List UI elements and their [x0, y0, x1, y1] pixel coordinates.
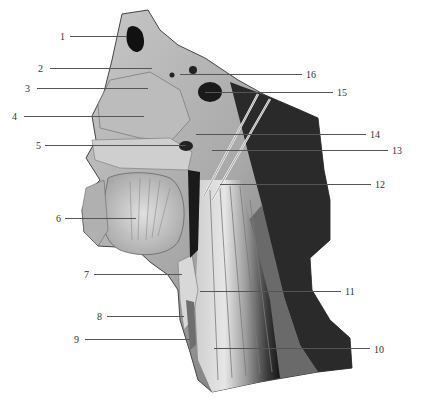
small-cavity — [189, 66, 197, 74]
anatomical-figure: 12345678910111213141516 — [0, 0, 422, 404]
leader-line-13 — [212, 150, 388, 151]
leader-line-11 — [200, 291, 341, 292]
leader-line-9 — [85, 339, 190, 340]
label-number-13: 13 — [392, 146, 402, 156]
label-number-11: 11 — [345, 287, 355, 297]
label-number-7: 7 — [84, 270, 89, 280]
leader-line-12 — [220, 184, 371, 185]
label-number-1: 1 — [60, 32, 65, 42]
leader-line-1 — [70, 36, 126, 37]
pharyngeal-opening — [179, 141, 193, 151]
leader-line-16 — [180, 74, 302, 75]
label-number-15: 15 — [337, 88, 347, 98]
label-number-10: 10 — [374, 345, 384, 355]
leader-line-15 — [205, 92, 333, 93]
leader-line-2 — [50, 68, 152, 69]
leader-line-7 — [94, 274, 182, 275]
label-number-2: 2 — [38, 64, 43, 74]
label-number-6: 6 — [56, 214, 61, 224]
small-cavity-2 — [170, 73, 175, 78]
label-number-16: 16 — [306, 70, 316, 80]
label-number-5: 5 — [36, 141, 41, 151]
label-number-3: 3 — [25, 84, 30, 94]
specimen-image — [0, 0, 422, 404]
leader-line-4 — [24, 116, 144, 117]
leader-line-8 — [107, 316, 184, 317]
tongue — [103, 173, 185, 255]
label-number-4: 4 — [12, 112, 17, 122]
label-number-8: 8 — [97, 312, 102, 322]
label-number-14: 14 — [370, 130, 380, 140]
label-number-9: 9 — [74, 335, 79, 345]
leader-line-10 — [214, 348, 370, 349]
label-number-12: 12 — [375, 180, 385, 190]
lower-lip — [82, 180, 108, 246]
leader-line-5 — [45, 145, 186, 146]
leader-line-6 — [65, 218, 136, 219]
leader-line-14 — [196, 134, 366, 135]
leader-line-3 — [37, 88, 148, 89]
